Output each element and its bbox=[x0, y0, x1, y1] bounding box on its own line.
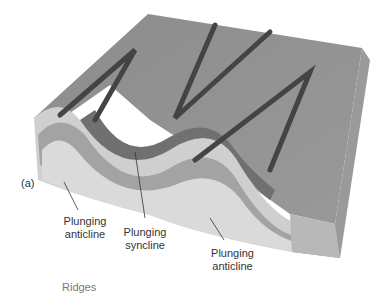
bottom-caption-cut: Ridges bbox=[62, 281, 96, 293]
label-line: anticline bbox=[205, 260, 260, 273]
label-line: syncline bbox=[120, 239, 170, 252]
label-line: Plunging bbox=[120, 226, 170, 239]
label-plunging-anticline-right: Plunging anticline bbox=[205, 247, 260, 273]
panel-label: (a) bbox=[21, 177, 34, 189]
label-plunging-anticline-left: Plunging anticline bbox=[60, 215, 110, 241]
label-line: Plunging bbox=[205, 247, 260, 260]
label-line: anticline bbox=[60, 228, 110, 241]
label-line: Plunging bbox=[60, 215, 110, 228]
label-plunging-syncline: Plunging syncline bbox=[120, 226, 170, 252]
